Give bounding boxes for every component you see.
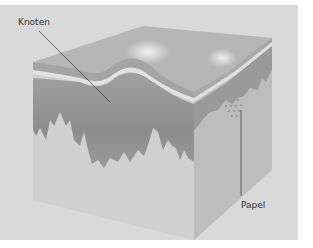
skin-block-illustration [0,0,313,248]
label-knoten: Knoten [18,17,50,27]
papel-bump-highlight [208,49,236,67]
label-papel: Papel [241,200,265,210]
